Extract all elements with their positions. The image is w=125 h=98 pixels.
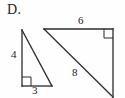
large-right-triangle xyxy=(44,29,113,97)
geometry-figure-panel: D. 4 3 6 8 xyxy=(0,0,125,98)
side-label-large-triangle-hypotenuse: 8 xyxy=(72,67,78,78)
side-label-large-triangle-horizontal-leg: 6 xyxy=(78,15,84,26)
small-right-triangle xyxy=(22,30,52,86)
side-label-small-triangle-horizontal-leg: 3 xyxy=(32,85,38,96)
small-triangle-right-angle-marker xyxy=(22,77,31,86)
large-triangle-hypotenuse xyxy=(44,29,113,97)
small-triangle-hypotenuse xyxy=(22,30,52,86)
part-label: D. xyxy=(7,3,21,17)
large-triangle-right-angle-marker xyxy=(104,29,113,38)
side-label-small-triangle-vertical-leg: 4 xyxy=(11,49,17,60)
